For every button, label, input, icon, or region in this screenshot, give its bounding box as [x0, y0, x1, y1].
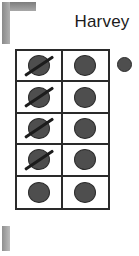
- screenshot-canvas: Harvey: [0, 0, 139, 256]
- crossed-out-token[interactable]: [28, 87, 50, 108]
- token[interactable]: [74, 87, 96, 108]
- circle-icon: [117, 57, 132, 72]
- page-title: Harvey: [68, 12, 136, 32]
- circle-icon: [74, 55, 96, 76]
- crossed-out-token[interactable]: [28, 118, 50, 139]
- crossed-out-token[interactable]: [28, 149, 50, 170]
- token[interactable]: [74, 55, 96, 76]
- token[interactable]: [28, 182, 50, 203]
- grid-cell-r5-c1[interactable]: [17, 177, 63, 208]
- circle-icon: [74, 87, 96, 108]
- grid-cell-r4-c1[interactable]: [17, 145, 63, 176]
- grid-cell-r2-c2[interactable]: [63, 82, 109, 113]
- token[interactable]: [74, 149, 96, 170]
- grid-cell-r4-c2[interactable]: [63, 145, 109, 176]
- grid-cell-r2-c1[interactable]: [17, 82, 63, 113]
- grid-cell-r5-c2[interactable]: [63, 177, 109, 208]
- loose-token[interactable]: [117, 57, 132, 72]
- token[interactable]: [74, 118, 96, 139]
- circle-icon: [28, 182, 50, 203]
- circle-icon: [74, 149, 96, 170]
- circle-icon: [74, 182, 96, 203]
- crossed-out-token[interactable]: [28, 55, 50, 76]
- token[interactable]: [74, 182, 96, 203]
- grid-cell-r3-c1[interactable]: [17, 114, 63, 145]
- corner-bracket-mark: [2, 2, 36, 44]
- token-grid: [15, 49, 110, 210]
- grid-cell-r1-c2[interactable]: [63, 51, 109, 82]
- circle-icon: [74, 118, 96, 139]
- grid-cell-r1-c1[interactable]: [17, 51, 63, 82]
- bottom-bar-mark: [2, 226, 10, 251]
- corner-bracket-vertical-arm: [2, 2, 10, 44]
- grid-cell-r3-c2[interactable]: [63, 114, 109, 145]
